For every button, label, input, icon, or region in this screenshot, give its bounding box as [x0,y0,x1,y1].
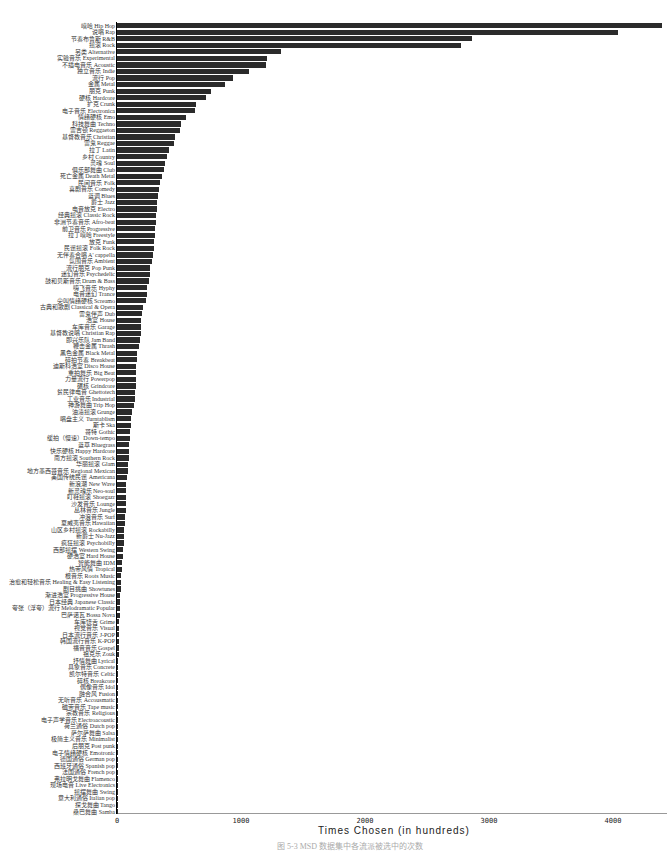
bar [117,455,129,460]
category-label: 新浪潮 New Wave [69,481,115,488]
category-label: 法国通俗 French pop [62,769,115,776]
x-tick-label: 4000 [605,817,622,825]
category-label: 意大利通俗 Italian pop [58,795,115,802]
category-label: 德国通俗 German pop [60,756,115,763]
bar [117,468,128,473]
bar [117,370,136,375]
x-tick-label: 1000 [233,817,250,825]
bar [117,698,118,703]
bar [117,449,129,454]
bar [117,298,146,303]
category-label: 民谣摇滚 Folk Rock [64,245,115,252]
bar [117,763,118,768]
bar [117,351,137,356]
bar [117,809,118,814]
category-label: 扩克 Crunk [87,101,116,108]
bar [117,658,118,663]
category-label: 祖克乐 Zouk [83,651,115,658]
x-axis [117,813,667,814]
bar [117,423,131,428]
bar [117,187,159,192]
category-label: 疯狂摇滚 Psychobilly [61,540,115,547]
bar [117,154,167,159]
bar [117,233,155,238]
bar [117,377,136,382]
bar [117,259,152,264]
bar [117,206,157,211]
bar [117,626,119,631]
bar [117,750,118,755]
bar [117,665,118,670]
bar [117,534,124,539]
bar [117,383,136,388]
bar [117,757,118,762]
bar [117,685,118,690]
category-label: 金属 Metal [88,81,116,88]
category-label: 具象音乐 Concrete [68,664,115,671]
bar [117,783,118,788]
bar [117,776,118,781]
bar [117,619,119,624]
x-tick-label: 3000 [481,817,498,825]
bar [117,613,120,618]
category-label: 灵魂 Soul [90,160,115,167]
bar [117,174,162,179]
bar [117,23,662,28]
bar [117,331,141,336]
bar [117,292,147,297]
bar [117,226,155,231]
bar [117,318,141,323]
bar [117,737,118,742]
bar [117,606,120,611]
bar [117,671,118,676]
bar [117,527,124,532]
bar [117,89,211,94]
bar [117,429,130,434]
bar [117,357,137,362]
bar [117,272,150,277]
bar [117,554,123,559]
bar [117,495,126,500]
bar [117,711,118,716]
bar [117,115,186,120]
bar [117,802,118,807]
category-label: 爵士 Jazz [91,199,115,206]
bar [117,691,118,696]
category-label: 治愈和轻松音乐 Healing & Easy Listening [9,579,115,586]
category-label: 鼓和贝斯音乐 Drum & Bass [45,278,116,285]
category-label: 韩国流行音乐 K-POP [60,638,115,645]
category-label: 朋克 Punk [89,88,115,95]
category-label: 实验音乐 Experimental [57,55,115,62]
bar [117,639,119,644]
category-label: 快乐硬核 Happy Hardcore [50,448,115,455]
category-label: 电音迷幻 Trance [73,291,115,298]
bar [117,717,118,722]
category-label: 丛林音乐 Jungle [74,507,115,514]
category-label: 偶像音乐 Idol [80,684,115,691]
bar [117,337,140,342]
category-label: 黑色金属 Black Metal [60,350,115,357]
category-label: 荷兰通俗 Dutch pop [64,723,115,730]
category-label: 力量流行 Powerpop [65,376,115,383]
bar [117,508,126,513]
bar [117,128,180,133]
bar [117,161,165,166]
category-label: 迷幻音乐 Psychedelic [61,271,115,278]
bar [117,678,118,683]
bar [117,416,131,421]
category-label: 巴萨诺瓦 Bossa Nova [61,612,115,619]
bar [117,265,150,270]
category-label: 喜剧音乐 Comedy [69,186,115,193]
category-label: 硬浩室 Hard House [67,553,115,560]
bar [117,43,461,48]
category-label: 雷鬼 Reggae [84,140,116,147]
bar [117,220,156,225]
category-label: 缓拍（慢速）Down-tempo [47,435,115,442]
bar [117,789,118,794]
bar [117,246,154,251]
category-label: 夏威夷音乐 Hawaiian [61,520,116,527]
category-label: 渐进浩室 Progressive House [45,592,115,599]
category-label: 盯鞋摇滚 Shoegazr [67,494,115,501]
bar [117,645,119,650]
